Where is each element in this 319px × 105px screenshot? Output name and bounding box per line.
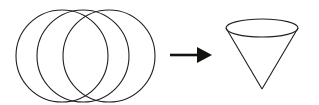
circle-middle — [37, 10, 129, 102]
arrow-icon — [170, 47, 212, 63]
diagram-canvas — [0, 0, 319, 105]
arrow-head — [197, 47, 212, 63]
circle-back — [16, 10, 108, 102]
cone-top-ellipse — [226, 19, 298, 37]
diagram-svg — [0, 0, 319, 105]
overlapping-circles-group — [16, 10, 155, 102]
cone-group — [226, 19, 298, 89]
circle-front — [63, 10, 155, 102]
